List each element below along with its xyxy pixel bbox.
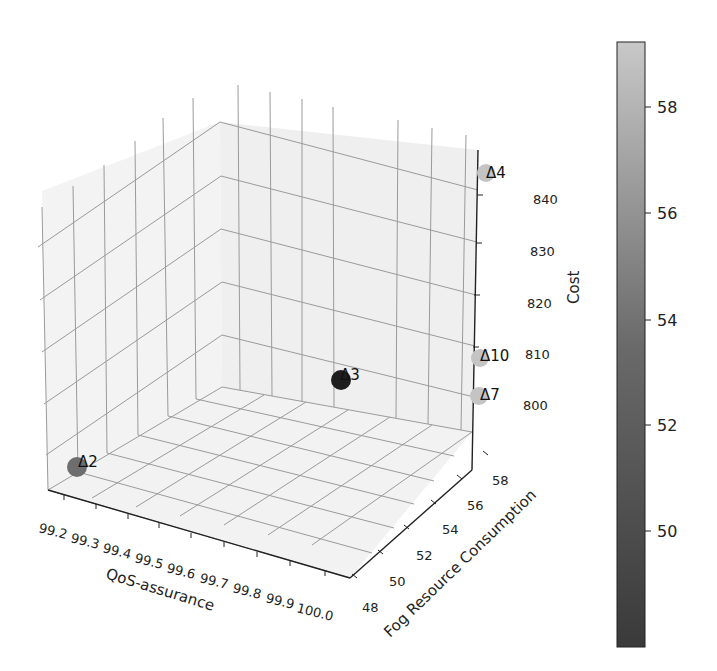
colorbar-tick-label: 50 bbox=[657, 522, 677, 541]
y-tick-label: 54 bbox=[442, 522, 459, 537]
x-tick-label: 99.4 bbox=[101, 540, 133, 562]
point-label: Δ4 bbox=[486, 164, 506, 182]
x-tick-label: 99.2 bbox=[37, 520, 69, 542]
x-tick-label: 99.8 bbox=[231, 580, 263, 602]
x-tick-label: 100.0 bbox=[295, 600, 335, 624]
point-label: Δ10 bbox=[480, 347, 509, 365]
x-tick-label: 99.9 bbox=[264, 590, 296, 612]
x-tick-label: 99.5 bbox=[133, 550, 165, 572]
point-label: Δ7 bbox=[480, 386, 500, 404]
z-tick-label: 830 bbox=[530, 244, 555, 259]
colorbar-tick-label: 56 bbox=[657, 204, 677, 223]
point-delta7: Δ7 bbox=[470, 386, 500, 405]
x-tick-label: 99.6 bbox=[165, 560, 197, 582]
y-tick-label: 58 bbox=[492, 473, 509, 488]
point-delta10: Δ10 bbox=[471, 347, 509, 367]
scatter-3d-plot: 99.2 99.3 99.4 99.5 99.6 99.7 99.8 99.9 … bbox=[0, 0, 717, 671]
x-axis-label: QoS-assurance bbox=[104, 565, 217, 615]
z-axis-ticks: 800 810 820 830 840 bbox=[472, 192, 558, 413]
point-delta4: Δ4 bbox=[477, 164, 506, 182]
x-tick-label: 99.7 bbox=[198, 570, 230, 592]
y-tick-label: 50 bbox=[389, 574, 406, 589]
z-tick-label: 800 bbox=[523, 398, 548, 413]
y-tick-label: 52 bbox=[416, 548, 433, 563]
colorbar-tick-label: 54 bbox=[657, 311, 677, 330]
z-tick-label: 840 bbox=[533, 192, 558, 207]
point-label: Δ3 bbox=[340, 366, 360, 384]
x-tick-label: 99.3 bbox=[69, 530, 101, 552]
point-label: Δ2 bbox=[78, 453, 98, 471]
colorbar: 58 56 54 52 50 bbox=[617, 42, 677, 647]
y-tick-label: 48 bbox=[362, 600, 379, 615]
z-tick-label: 820 bbox=[527, 296, 552, 311]
colorbar-tick-label: 58 bbox=[657, 98, 677, 117]
axis-panes bbox=[42, 122, 478, 578]
z-tick-label: 810 bbox=[525, 347, 550, 362]
y-tick-label: 56 bbox=[467, 498, 484, 513]
z-axis-label: Cost bbox=[565, 271, 583, 304]
colorbar-tick-label: 52 bbox=[657, 416, 677, 435]
colorbar-gradient bbox=[617, 42, 645, 647]
